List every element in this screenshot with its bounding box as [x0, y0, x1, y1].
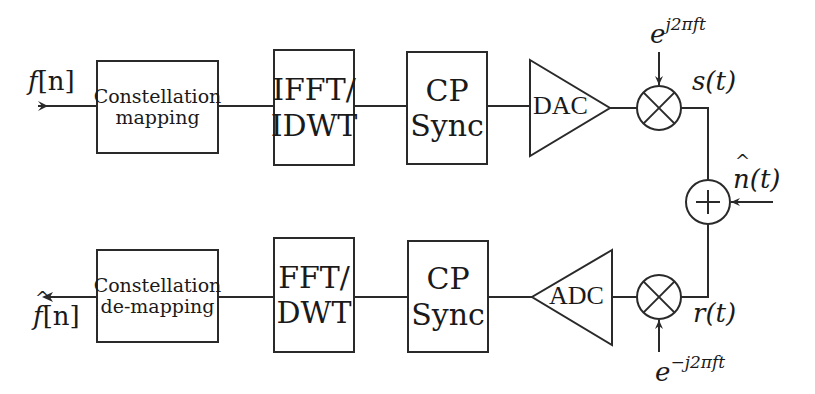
block-constellation-demapping: Constellation de-mapping [96, 249, 219, 343]
block-label-line2: Sync [410, 108, 484, 143]
block-label-line1: CP [425, 73, 468, 108]
block-label-line1: CP [426, 261, 469, 296]
output-signal-label: f[n] [33, 301, 80, 331]
block-label-line1: FFT/ [278, 260, 350, 295]
block-label-line2: Sync [411, 297, 485, 332]
noise-label: n(t) [733, 164, 781, 194]
wire-mixer-to-adder [681, 108, 708, 180]
block-fft-dwt: FFT/ DWT [273, 237, 355, 353]
carrier-rx-label: e−j2πft [655, 352, 725, 387]
block-label-line2: IDWT [271, 108, 358, 143]
block-cp-sync-rx: CP Sync [407, 240, 489, 353]
wire-adder-to-mixer-rx [681, 224, 708, 297]
block-label-line1: Constellation [94, 86, 222, 107]
dac-label: DAC [533, 91, 588, 121]
block-label-line2: DWT [277, 295, 352, 330]
rx-signal-label: r(t) [693, 298, 736, 328]
block-label-line2: mapping [115, 107, 199, 128]
block-label-line1: Constellation [94, 275, 222, 296]
carrier-tx-label: ej2πft [650, 14, 706, 49]
input-signal-label: f[n] [28, 66, 75, 96]
transceiver-block-diagram: Constellation mapping IFFT/ IDWT CP Sync… [0, 0, 815, 394]
block-label-line2: de-mapping [101, 296, 215, 317]
block-ifft-idwt: IFFT/ IDWT [273, 49, 355, 166]
adc-label: ADC [549, 281, 604, 311]
block-cp-sync-tx: CP Sync [406, 51, 488, 165]
block-constellation-mapping: Constellation mapping [96, 60, 219, 154]
block-label-line1: IFFT/ [272, 72, 356, 107]
tx-signal-label: s(t) [692, 66, 736, 96]
